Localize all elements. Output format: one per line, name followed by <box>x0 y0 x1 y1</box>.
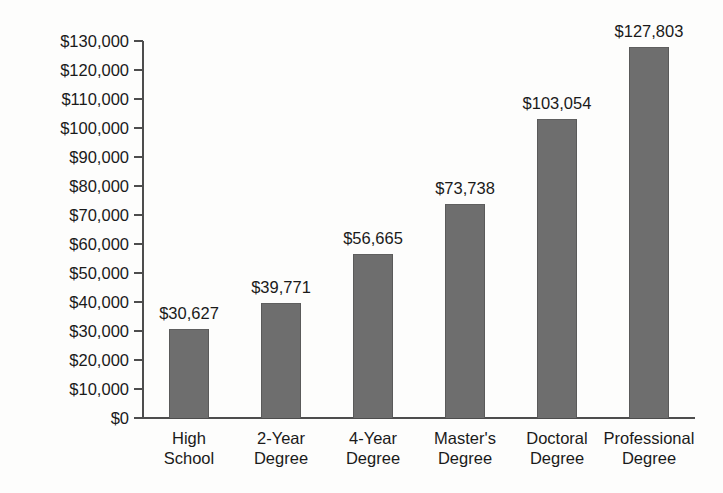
y-axis-tick-label: $30,000 <box>69 323 129 340</box>
y-axis-tick-label: $20,000 <box>69 352 129 369</box>
y-axis-tick <box>134 301 143 303</box>
y-axis-tick-label: $40,000 <box>69 294 129 311</box>
bar-value-label: $56,665 <box>313 230 433 247</box>
y-axis-tick-label: $120,000 <box>60 62 129 79</box>
y-axis-tick-label: $10,000 <box>69 381 129 398</box>
bar-value-label: $103,054 <box>497 95 617 112</box>
category-label-line: Professional <box>589 428 709 448</box>
x-axis-category-label: ProfessionalDegree <box>589 428 709 468</box>
bar-chart: $0$10,000$20,000$30,000$40,000$50,000$60… <box>0 0 723 493</box>
y-axis-tick-label: $90,000 <box>69 149 129 166</box>
bar <box>353 254 393 418</box>
y-axis-tick-label: $0 <box>111 410 129 427</box>
y-axis-tick-label: $80,000 <box>69 178 129 195</box>
y-axis-tick-label: $130,000 <box>60 33 129 50</box>
y-axis-tick <box>134 214 143 216</box>
y-axis-tick <box>134 69 143 71</box>
y-axis-tick <box>134 127 143 129</box>
bar-value-label: $39,771 <box>221 279 341 296</box>
bar <box>537 119 577 418</box>
bar <box>445 204 485 418</box>
category-label-line: Degree <box>589 448 709 468</box>
y-axis-tick <box>134 98 143 100</box>
y-axis-tick <box>134 330 143 332</box>
y-axis-tick-label: $70,000 <box>69 207 129 224</box>
y-axis-tick <box>134 243 143 245</box>
y-axis-tick <box>134 156 143 158</box>
y-axis-tick <box>134 185 143 187</box>
y-axis-tick <box>134 388 143 390</box>
bar <box>629 47 669 418</box>
y-axis-tick <box>134 40 143 42</box>
y-axis-tick <box>134 417 143 419</box>
y-axis-tick-label: $100,000 <box>60 120 129 137</box>
y-axis-tick-label: $60,000 <box>69 236 129 253</box>
bar-value-label: $30,627 <box>129 305 249 322</box>
bar <box>261 303 301 418</box>
y-axis-tick <box>134 272 143 274</box>
bar-value-label: $73,738 <box>405 180 525 197</box>
bar-value-label: $127,803 <box>589 23 709 40</box>
y-axis-tick <box>134 359 143 361</box>
y-axis-tick-label: $50,000 <box>69 265 129 282</box>
y-axis-tick-label: $110,000 <box>61 91 129 108</box>
bar <box>169 329 209 418</box>
